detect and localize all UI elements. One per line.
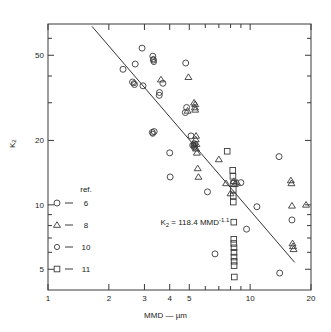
x-tick-label: 10 xyxy=(246,294,255,303)
data-point-ref-6 xyxy=(289,217,295,223)
data-point-ref-6 xyxy=(204,189,210,195)
data-point-ref-6 xyxy=(139,45,145,51)
legend-marker-ref-6 xyxy=(54,200,60,206)
data-point-ref-11 xyxy=(230,168,236,174)
data-point-ref-8 xyxy=(289,240,296,246)
x-tick-label: 4 xyxy=(167,294,172,303)
x-tick-label: 3 xyxy=(142,294,147,303)
y-tick-label: 50 xyxy=(35,51,44,60)
x-tick-label: 2 xyxy=(107,294,112,303)
data-point-ref-6 xyxy=(212,251,218,257)
data-point-ref-6 xyxy=(167,150,173,156)
legend-label-ref-6: 6 xyxy=(84,199,89,208)
y-tick-label: 5 xyxy=(40,265,45,274)
figure-container: 1234510205102050K2 = 118.4 MMD-1.1ref.68… xyxy=(0,0,331,332)
data-point-ref-11 xyxy=(230,199,236,205)
x-tick-label: 1 xyxy=(46,294,51,303)
data-point-ref-6 xyxy=(276,154,282,160)
data-point-ref-11 xyxy=(231,237,237,243)
legend-label-ref-11: 11 xyxy=(82,265,91,274)
data-point-ref-8 xyxy=(185,74,192,80)
legend-marker-ref-10 xyxy=(54,244,59,249)
data-point-ref-6 xyxy=(277,270,283,276)
data-point-ref-6 xyxy=(160,80,166,86)
legend-label-ref-8: 8 xyxy=(84,221,89,230)
data-point-ref-8 xyxy=(215,156,222,162)
data-point-ref-8 xyxy=(195,174,202,180)
data-point-ref-8 xyxy=(288,202,295,208)
y-axis-title: K2 xyxy=(8,139,17,148)
data-point-ref-8 xyxy=(287,177,294,183)
legend-header: ref. xyxy=(80,185,92,194)
equation-annotation: K2 = 118.4 MMD-1.1 xyxy=(160,217,230,228)
data-point-ref-11 xyxy=(224,148,230,154)
data-point-ref-6 xyxy=(254,204,260,210)
legend-marker-ref-8 xyxy=(54,222,61,228)
x-axis-title: MMD — µm xyxy=(0,311,331,320)
data-point-ref-8 xyxy=(194,165,201,171)
data-point-ref-11 xyxy=(230,173,236,179)
legend-marker-ref-11 xyxy=(54,266,60,272)
y-tick-label: 20 xyxy=(35,136,44,145)
data-point-ref-6 xyxy=(183,60,189,66)
data-point-ref-6 xyxy=(167,174,173,180)
legend-label-ref-10: 10 xyxy=(82,243,91,252)
data-point-ref-6 xyxy=(244,226,250,232)
data-point-ref-6 xyxy=(132,61,138,67)
data-point-ref-11 xyxy=(232,274,238,280)
x-tick-label: 20 xyxy=(307,294,316,303)
y-tick-label: 10 xyxy=(35,201,44,210)
data-point-ref-6 xyxy=(120,66,126,72)
x-tick-label: 5 xyxy=(187,294,192,303)
scatter-plot-canvas: 1234510205102050K2 = 118.4 MMD-1.1ref.68… xyxy=(0,0,331,332)
data-point-ref-11 xyxy=(231,219,237,225)
